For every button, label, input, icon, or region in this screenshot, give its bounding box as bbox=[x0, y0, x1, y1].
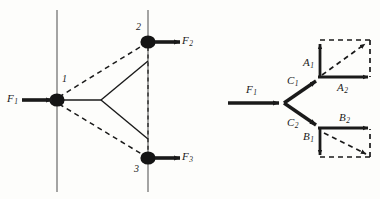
force-label-F3: F3 bbox=[182, 151, 192, 162]
node-label-3: 3 bbox=[134, 164, 139, 174]
lower-diagonal-resultant bbox=[324, 133, 366, 154]
diagram-canvas bbox=[0, 0, 380, 199]
upper-diagonal-resultant bbox=[322, 44, 365, 75]
vector-label-A2: A2 bbox=[337, 82, 347, 93]
node-label-2: 2 bbox=[136, 22, 141, 32]
vector-label-C2: C2 bbox=[287, 117, 298, 128]
force-diagram-figure: F1 F2 F3 1 2 3 F1 C1 C2 A1 A2 B1 B2 bbox=[0, 0, 380, 199]
vector-label-C1: C1 bbox=[287, 75, 298, 86]
force-label-F1-left: F1 bbox=[7, 93, 17, 104]
vector-label-A1: A1 bbox=[303, 57, 313, 68]
vector-label-B2: B2 bbox=[339, 112, 349, 123]
vector-label-B1: B1 bbox=[303, 131, 313, 142]
force-label-F2: F2 bbox=[182, 35, 192, 46]
node-label-1: 1 bbox=[62, 74, 67, 84]
lower-parallelogram bbox=[320, 129, 370, 157]
left-solid-members bbox=[58, 61, 148, 139]
force-label-F1-right: F1 bbox=[246, 84, 256, 95]
